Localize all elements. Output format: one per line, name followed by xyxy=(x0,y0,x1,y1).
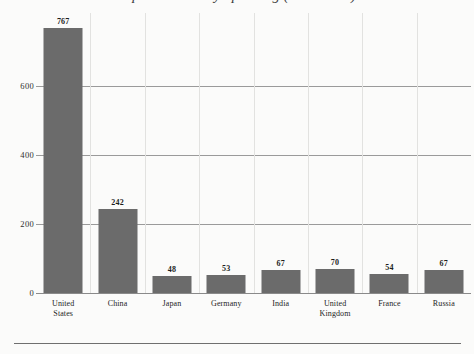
x-label-france: France xyxy=(362,299,416,309)
bar-value-label: 54 xyxy=(385,263,393,272)
gridline-y-0 xyxy=(36,293,471,294)
y-tick-label-200: 200 xyxy=(2,219,34,229)
x-label-line: India xyxy=(254,299,308,309)
x-label-line: United xyxy=(308,299,362,309)
plot-wrapper: 0200400600 767242485367705467 UnitedStat… xyxy=(0,0,474,354)
bar-france[interactable] xyxy=(370,274,409,293)
bar-value-label: 67 xyxy=(276,259,284,268)
x-label-japan: Japan xyxy=(145,299,199,309)
bar-value-label: 70 xyxy=(331,258,339,267)
x-label-line: Kingdom xyxy=(308,309,362,319)
x-label-line: Germany xyxy=(199,299,253,309)
bar-slot: 54 xyxy=(362,13,416,293)
bar-slot: 767 xyxy=(36,13,90,293)
x-label-united-kingdom: UnitedKingdom xyxy=(308,299,362,319)
x-label-line: Japan xyxy=(145,299,199,309)
bar-value-label: 242 xyxy=(111,198,124,207)
bar-series: 767242485367705467 xyxy=(36,13,471,293)
x-axis-category-labels: UnitedStatesChinaJapanGermanyIndiaUnited… xyxy=(36,299,471,333)
bar-india[interactable] xyxy=(261,270,300,293)
bar-value-label: 53 xyxy=(222,264,230,273)
bar-russia[interactable] xyxy=(424,270,463,293)
x-label-united-states: UnitedStates xyxy=(36,299,90,319)
bar-value-label: 767 xyxy=(57,17,70,26)
y-tick-label-600: 600 xyxy=(2,81,34,91)
y-tick-label-0: 0 xyxy=(2,288,34,298)
x-label-china: China xyxy=(90,299,144,309)
x-label-line: Russia xyxy=(417,299,471,309)
x-label-line: France xyxy=(362,299,416,309)
bar-united-states[interactable] xyxy=(44,28,83,293)
x-label-russia: Russia xyxy=(417,299,471,309)
x-label-india: India xyxy=(254,299,308,309)
y-tick-label-400: 400 xyxy=(2,150,34,160)
x-label-line: United xyxy=(36,299,90,309)
bar-value-label: 67 xyxy=(440,259,448,268)
bar-japan[interactable] xyxy=(152,276,191,293)
chart-page: Top Countries by Spending (in Billions) … xyxy=(0,0,474,354)
x-label-line: States xyxy=(36,309,90,319)
bar-germany[interactable] xyxy=(207,275,246,293)
y-axis-tick-labels: 0200400600 xyxy=(0,13,34,293)
x-label-germany: Germany xyxy=(199,299,253,309)
bar-slot: 70 xyxy=(308,13,362,293)
bar-slot: 48 xyxy=(145,13,199,293)
footer-divider xyxy=(14,343,461,344)
bar-slot: 53 xyxy=(199,13,253,293)
bar-slot: 67 xyxy=(417,13,471,293)
bar-china[interactable] xyxy=(98,209,137,293)
bar-united-kingdom[interactable] xyxy=(316,269,355,293)
bar-slot: 67 xyxy=(254,13,308,293)
x-label-line: China xyxy=(90,299,144,309)
bar-value-label: 48 xyxy=(168,265,176,274)
bar-slot: 242 xyxy=(90,13,144,293)
